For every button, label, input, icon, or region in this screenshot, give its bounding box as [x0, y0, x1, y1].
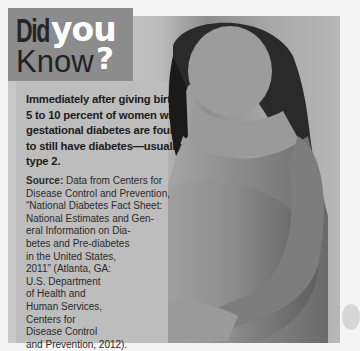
- source-line: 2011” (Atlanta, GA:: [26, 263, 171, 276]
- source-label: Source:: [26, 175, 63, 186]
- source-line: of Health and: [26, 288, 171, 301]
- question-mark-icon: ?: [96, 43, 114, 74]
- source-line: and Prevention, 2012).: [26, 339, 171, 351]
- source-line: eral Information on Dia-: [26, 225, 171, 238]
- fact-line: gestational diabetes are found: [26, 123, 176, 139]
- source-line: National Estimates and Gen-: [26, 213, 171, 226]
- fact-text: Immediately after giving birth, 5 to 10 …: [26, 92, 176, 170]
- page-edge-circle: [342, 304, 360, 330]
- did-you-know-header: Did you Know ?: [8, 8, 133, 81]
- fact-line: Immediately after giving birth,: [26, 92, 176, 108]
- title-did: Did: [16, 14, 49, 47]
- source-citation: Source: Data from Centers for Disease Co…: [26, 175, 171, 351]
- source-line: Human Services,: [26, 301, 171, 314]
- source-line: “National Diabetes Fact Sheet:: [26, 200, 171, 213]
- source-line: Centers for: [26, 314, 171, 327]
- fact-line: type 2.: [26, 154, 176, 170]
- source-line: in the United States,: [26, 251, 171, 264]
- source-line: betes and Pre-diabetes: [26, 238, 171, 251]
- source-line: Disease Control and Prevention,: [26, 188, 171, 201]
- source-line: Data from Centers for: [63, 175, 162, 186]
- title-know: Know: [16, 46, 94, 77]
- source-line: Disease Control: [26, 326, 171, 339]
- source-line: U.S. Department: [26, 276, 171, 289]
- fact-panel: Immediately after giving birth, 5 to 10 …: [16, 81, 168, 343]
- fact-line: 5 to 10 percent of women with: [26, 108, 176, 124]
- fact-line: to still have diabetes—usually: [26, 139, 176, 155]
